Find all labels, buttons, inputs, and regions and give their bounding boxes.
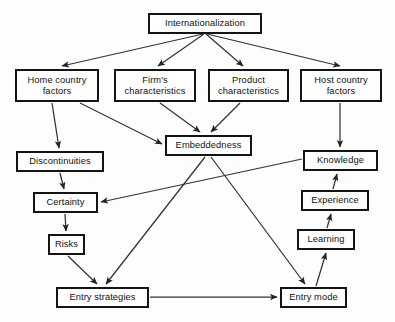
edge-home-country-embeddedness (80, 103, 162, 144)
edge-entry-mode-learning (316, 253, 326, 286)
node-label: Firm's characteristics (125, 75, 186, 96)
node-label: Internationalization (165, 18, 245, 28)
node-entry-mode[interactable]: Entry mode (280, 287, 347, 308)
edge-certainty-risks (65, 214, 66, 231)
node-label: Embeddedness (176, 140, 242, 150)
node-learning[interactable]: Learning (297, 229, 355, 250)
edge-knowledge-certainty (101, 159, 302, 202)
edge-experience-knowledge (333, 174, 337, 189)
edge-embeddedness-entry-mode (211, 157, 305, 284)
node-label: Learning (308, 234, 345, 244)
node-host-country-factors[interactable]: Host country factors (300, 69, 382, 102)
node-label: Host country factors (314, 75, 367, 96)
edge-risks-entry-strategies (68, 256, 97, 284)
edge-embeddedness-entry-strategies (106, 157, 205, 284)
internationalization-diagram: Internationalization Home country factor… (0, 0, 395, 322)
edge-internationalization-host-country (207, 34, 340, 66)
edge-learning-experience (327, 214, 331, 228)
edge-firms-embeddedness (160, 103, 200, 132)
node-internationalization[interactable]: Internationalization (148, 13, 262, 34)
node-label: Certainty (46, 197, 84, 207)
node-label: Discontinuities (29, 156, 90, 166)
edge-home-country-discontinuities (52, 103, 59, 148)
node-label: Experience (311, 195, 359, 205)
node-label: Entry mode (289, 292, 338, 302)
node-experience[interactable]: Experience (301, 190, 369, 211)
node-label: Product characteristics (218, 75, 279, 96)
node-entry-strategies[interactable]: Entry strategies (56, 287, 149, 308)
node-product-characteristics[interactable]: Product characteristics (208, 69, 289, 102)
node-home-country-factors[interactable]: Home country factors (15, 69, 99, 102)
node-embeddedness[interactable]: Embeddedness (165, 135, 252, 156)
node-risks[interactable]: Risks (48, 234, 85, 255)
node-label: Entry strategies (69, 292, 135, 302)
edge-discontinuities-certainty (60, 173, 64, 189)
node-label: Home country factors (27, 75, 86, 96)
node-knowledge[interactable]: Knowledge (303, 150, 378, 171)
node-discontinuities[interactable]: Discontinuities (16, 151, 104, 172)
node-label: Knowledge (317, 155, 364, 165)
node-label: Risks (55, 239, 78, 249)
node-firms-characteristics[interactable]: Firm's characteristics (114, 69, 196, 102)
node-certainty[interactable]: Certainty (33, 192, 98, 213)
edge-product-embeddedness (211, 103, 240, 132)
